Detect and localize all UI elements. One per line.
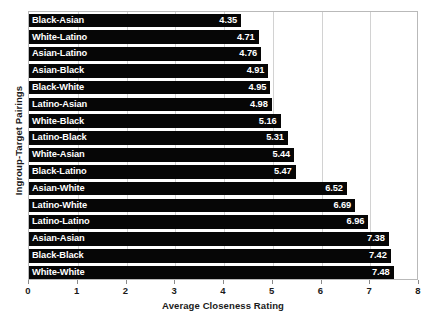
bar-row[interactable]: Asian-Asian7.38 bbox=[29, 232, 419, 246]
x-axis-tick bbox=[418, 280, 419, 284]
x-axis-tick-label: 2 bbox=[111, 285, 141, 296]
bar-row[interactable]: Black-Latino5.47 bbox=[29, 165, 419, 179]
bar-value-label: 7.38 bbox=[367, 234, 385, 243]
bar-category-label: Asian-Asian bbox=[32, 234, 85, 243]
bar[interactable]: Black-Asian4.35 bbox=[29, 14, 241, 28]
bar-row[interactable]: White-Latino4.71 bbox=[29, 30, 419, 44]
bar[interactable]: Black-Latino5.47 bbox=[29, 165, 296, 179]
bar-value-label: 4.95 bbox=[249, 83, 267, 92]
bar-row[interactable]: Asian-Latino4.76 bbox=[29, 47, 419, 61]
bar-row[interactable]: Latino-Asian4.98 bbox=[29, 98, 419, 112]
x-axis-tick-label: 0 bbox=[13, 285, 43, 296]
bar-row[interactable]: Black-White4.95 bbox=[29, 81, 419, 95]
bar-category-label: White-Latino bbox=[32, 33, 87, 42]
x-axis-tick bbox=[174, 280, 175, 284]
x-axis-title: Average Closeness Rating bbox=[28, 300, 418, 311]
bar-value-label: 6.96 bbox=[347, 217, 365, 226]
bar-value-label: 4.98 bbox=[250, 100, 268, 109]
y-axis-title: Ingroup-Target Pairings bbox=[13, 26, 24, 256]
bar-value-label: 6.52 bbox=[325, 184, 343, 193]
bar[interactable]: Latino-Latino6.96 bbox=[29, 215, 368, 229]
bar-category-label: Black-Latino bbox=[32, 167, 87, 176]
bar-category-label: Black-Black bbox=[32, 251, 84, 260]
x-axis-tick-label: 3 bbox=[159, 285, 189, 296]
x-axis-tick bbox=[223, 280, 224, 284]
x-axis-tick bbox=[28, 280, 29, 284]
bar-value-label: 6.69 bbox=[333, 201, 351, 210]
x-axis-tick bbox=[369, 280, 370, 284]
bar-category-label: Latino-Asian bbox=[32, 100, 87, 109]
bar[interactable]: Latino-White6.69 bbox=[29, 199, 355, 213]
bar[interactable]: Black-White4.95 bbox=[29, 81, 270, 95]
bar-category-label: White-White bbox=[32, 268, 85, 277]
bar-series: Black-Asian4.35White-Latino4.71Asian-Lat… bbox=[29, 12, 417, 279]
bar[interactable]: Latino-Black5.31 bbox=[29, 131, 288, 145]
bar[interactable]: White-Asian5.44 bbox=[29, 148, 294, 162]
x-axis-tick bbox=[272, 280, 273, 284]
bar-row[interactable]: Black-Asian4.35 bbox=[29, 14, 419, 28]
x-axis: 012345678 bbox=[28, 280, 418, 281]
bar[interactable]: Black-Black7.42 bbox=[29, 249, 391, 263]
bar-category-label: Latino-Latino bbox=[32, 217, 90, 226]
x-axis-tick-label: 5 bbox=[257, 285, 287, 296]
bar-value-label: 4.76 bbox=[239, 49, 257, 58]
x-axis-tick bbox=[321, 280, 322, 284]
bar-value-label: 5.31 bbox=[266, 133, 284, 142]
bar-category-label: Asian-Black bbox=[32, 66, 84, 75]
bar-row[interactable]: White-White7.48 bbox=[29, 266, 419, 280]
bar-category-label: Asian-White bbox=[32, 184, 85, 193]
bar-category-label: White-Asian bbox=[32, 150, 85, 159]
bar-value-label: 5.44 bbox=[272, 150, 290, 159]
bar-category-label: Black-White bbox=[32, 83, 84, 92]
x-axis-tick-label: 4 bbox=[208, 285, 238, 296]
bar-category-label: Asian-Latino bbox=[32, 49, 87, 58]
bar-category-label: Latino-Black bbox=[32, 133, 87, 142]
x-axis-tick bbox=[77, 280, 78, 284]
x-axis-tick-label: 7 bbox=[354, 285, 384, 296]
bar-value-label: 4.35 bbox=[219, 16, 237, 25]
bar-row[interactable]: Latino-Black5.31 bbox=[29, 131, 419, 145]
bar-value-label: 5.16 bbox=[259, 117, 277, 126]
bar-row[interactable]: White-Asian5.44 bbox=[29, 148, 419, 162]
bar-category-label: Black-Asian bbox=[32, 16, 84, 25]
x-axis-tick-label: 6 bbox=[306, 285, 336, 296]
bar-value-label: 4.91 bbox=[247, 66, 265, 75]
bar-row[interactable]: White-Black5.16 bbox=[29, 114, 419, 128]
bar-value-label: 7.42 bbox=[369, 251, 387, 260]
x-axis-tick bbox=[126, 280, 127, 284]
x-axis-tick-label: 8 bbox=[403, 285, 431, 296]
bar-category-label: Latino-White bbox=[32, 201, 87, 210]
x-axis-tick-label: 1 bbox=[62, 285, 92, 296]
bar[interactable]: Asian-Latino4.76 bbox=[29, 47, 261, 61]
bar-value-label: 5.47 bbox=[274, 167, 292, 176]
bar[interactable]: Latino-Asian4.98 bbox=[29, 98, 272, 112]
bar[interactable]: White-White7.48 bbox=[29, 266, 394, 280]
bar-row[interactable]: Asian-Black4.91 bbox=[29, 64, 419, 78]
bar[interactable]: Asian-White6.52 bbox=[29, 182, 347, 196]
bar[interactable]: White-Latino4.71 bbox=[29, 30, 259, 44]
bar-value-label: 4.71 bbox=[237, 33, 255, 42]
bar[interactable]: Asian-Black4.91 bbox=[29, 64, 268, 78]
bar[interactable]: White-Black5.16 bbox=[29, 114, 281, 128]
bar-row[interactable]: Latino-White6.69 bbox=[29, 199, 419, 213]
bar[interactable]: Asian-Asian7.38 bbox=[29, 232, 389, 246]
bar-row[interactable]: Latino-Latino6.96 bbox=[29, 215, 419, 229]
bar-category-label: White-Black bbox=[32, 117, 84, 126]
bar-chart: Ingroup-Target Pairings Black-Asian4.35W… bbox=[0, 0, 431, 324]
plot-area: Black-Asian4.35White-Latino4.71Asian-Lat… bbox=[28, 11, 418, 280]
bar-row[interactable]: Asian-White6.52 bbox=[29, 182, 419, 196]
bar-value-label: 7.48 bbox=[372, 268, 390, 277]
bar-row[interactable]: Black-Black7.42 bbox=[29, 249, 419, 263]
